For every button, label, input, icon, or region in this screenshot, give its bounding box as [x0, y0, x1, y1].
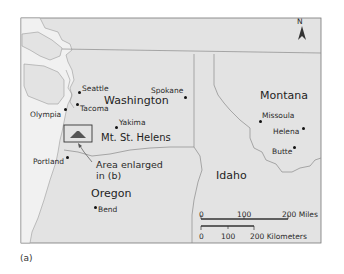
state-washington: Washington	[104, 95, 169, 106]
city-dot-butte	[293, 146, 296, 149]
city-butte: Butte	[272, 148, 292, 156]
city-dot-olympia	[64, 108, 67, 111]
city-missoula: Missoula	[262, 112, 294, 120]
inset-note-line1: Area enlarged	[96, 160, 163, 170]
scale-miles-200: 200 Miles	[282, 211, 318, 219]
scale-km-100: 100	[221, 233, 235, 241]
state-montana: Montana	[260, 90, 308, 101]
inset-note-line2: in (b)	[96, 171, 121, 181]
city-dot-seattle	[78, 91, 81, 94]
north-label: N	[297, 18, 303, 26]
city-dot-tacoma	[76, 103, 79, 106]
city-spokane: Spokane	[151, 87, 183, 95]
scale-km-200: 200 Kilometers	[250, 233, 307, 241]
city-portland: Portland	[33, 158, 64, 166]
city-tacoma: Tacoma	[80, 105, 109, 113]
scale-km-0: 0	[199, 233, 204, 241]
city-bend: Bend	[98, 206, 117, 214]
map: N Washington Oregon Idaho Montana Seattl…	[0, 0, 344, 274]
city-dot-missoula	[259, 120, 262, 123]
city-dot-bend	[94, 206, 97, 209]
city-seattle: Seattle	[82, 85, 109, 93]
figure-caption: (a)	[20, 253, 33, 263]
scale-miles-0: 0	[199, 211, 204, 219]
city-dot-portland	[66, 156, 69, 159]
city-olympia: Olympia	[30, 111, 61, 119]
state-oregon: Oregon	[91, 188, 131, 199]
city-yakima: Yakima	[119, 119, 145, 127]
city-dot-helena	[302, 127, 305, 130]
scale-miles-100: 100	[237, 211, 251, 219]
mt-st-helens-label: Mt. St. Helens	[101, 133, 171, 143]
state-idaho: Idaho	[216, 170, 247, 181]
city-helena: Helena	[273, 128, 299, 136]
city-dot-spokane	[184, 96, 187, 99]
city-dot-yakima	[115, 126, 118, 129]
